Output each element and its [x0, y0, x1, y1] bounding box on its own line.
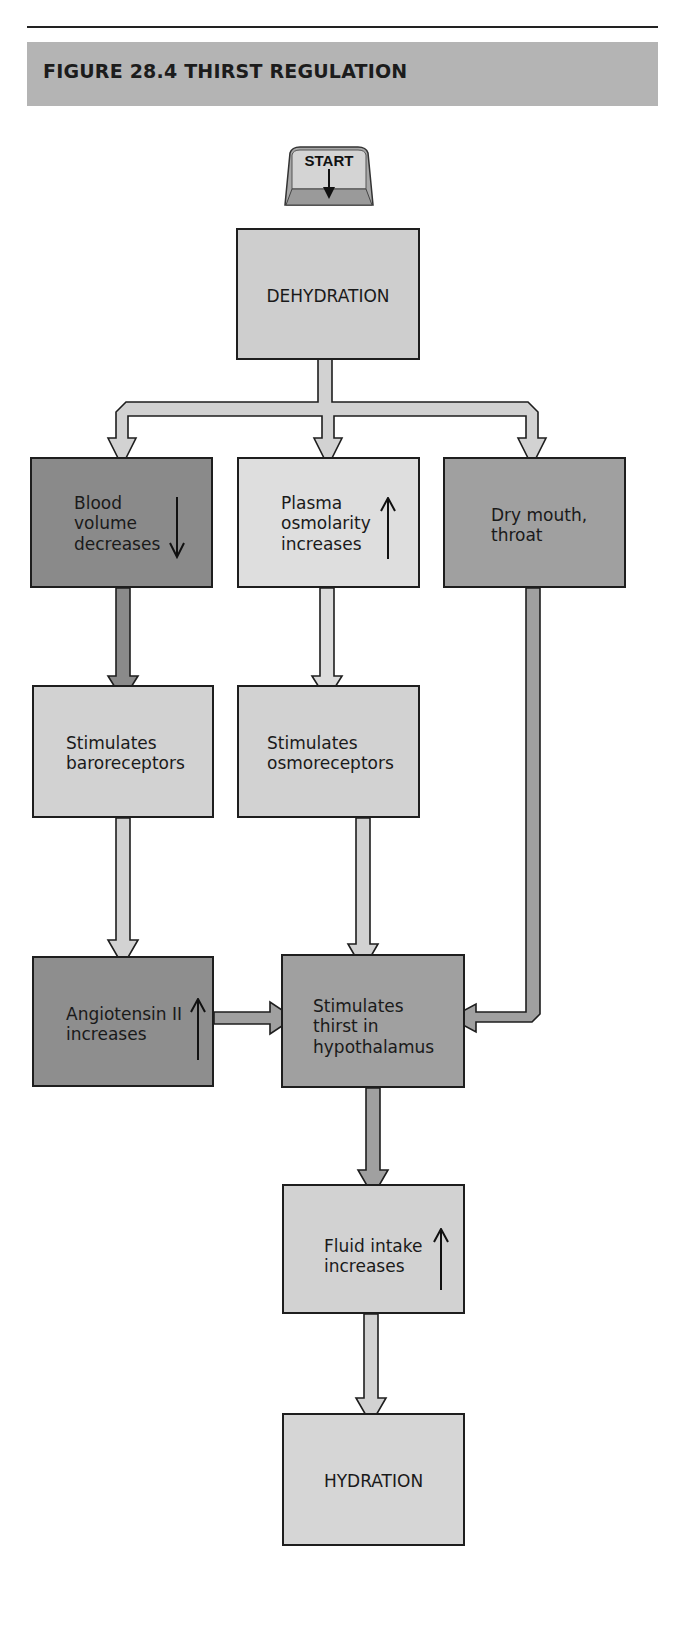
node-blood-volume: Blood volume decreases [30, 457, 213, 588]
node-osmoreceptors: Stimulates osmoreceptors [237, 685, 420, 818]
node-fluid-intake: Fluid intake increases [282, 1184, 465, 1314]
node-hypothalamus: Stimulates thirst in hypothalamus [281, 954, 465, 1088]
increase-arrow-icon [379, 497, 397, 559]
node-hypothalamus-label: Stimulates thirst in hypothalamus [313, 996, 434, 1057]
arrow-osmo-to-hypo [348, 818, 378, 970]
node-osmoreceptors-label: Stimulates osmoreceptors [267, 733, 394, 774]
increase-arrow-icon [189, 998, 207, 1060]
node-dry-mouth: Dry mouth, throat [443, 457, 626, 588]
node-dehydration-label: DEHYDRATION [238, 286, 418, 306]
node-plasma-osmolarity: Plasma osmolarity increases [237, 457, 420, 588]
node-blood-volume-label: Blood volume decreases [74, 493, 160, 554]
arrow-blood-to-baro [108, 588, 138, 700]
node-fluid-intake-label: Fluid intake increases [324, 1236, 422, 1277]
arrow-fluid-to-hydration [356, 1314, 386, 1424]
node-baroreceptors-label: Stimulates baroreceptors [66, 733, 185, 774]
node-dry-mouth-label: Dry mouth, throat [491, 505, 587, 546]
decrease-arrow-icon [168, 497, 186, 559]
arrow-baro-to-angio [108, 818, 138, 966]
node-dehydration: DEHYDRATION [236, 228, 420, 360]
node-hydration: HYDRATION [282, 1413, 465, 1546]
node-baroreceptors: Stimulates baroreceptors [32, 685, 214, 818]
arrow-plasma-to-osmo [312, 588, 342, 700]
arrow-hypo-to-fluid [358, 1088, 388, 1196]
node-angiotensin-label: Angiotensin II increases [66, 1004, 182, 1045]
arrow-dehydration-split [108, 358, 546, 466]
node-plasma-osmolarity-label: Plasma osmolarity increases [281, 493, 371, 554]
node-angiotensin: Angiotensin II increases [32, 956, 214, 1087]
node-hydration-label: HYDRATION [284, 1471, 463, 1491]
increase-arrow-icon [432, 1228, 450, 1290]
